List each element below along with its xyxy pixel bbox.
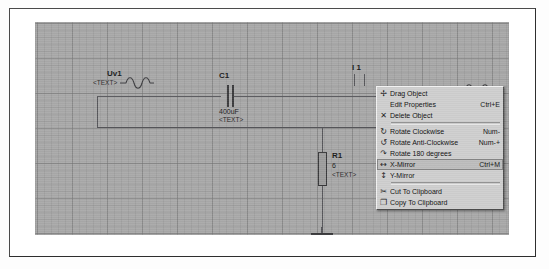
menu-item-accelerator: Ctrl+M — [473, 160, 500, 169]
menu-item-delete-object[interactable]: ✕Delete Object — [377, 110, 503, 121]
menu-item-x-mirror[interactable]: ↔X-MirrorCtrl+M — [377, 159, 503, 170]
component-uv1[interactable]: Uv1 <TEXT> — [93, 70, 155, 98]
menu-item-label: Rotate Anti-Clockwise — [390, 138, 473, 147]
menu-item-copy-to-clipboard[interactable]: ❐Copy To Clipboard — [377, 197, 503, 208]
resistor-symbol — [318, 152, 327, 186]
component-uv1-text: <TEXT> — [93, 79, 117, 87]
menu-item-cut-to-clipboard[interactable]: ✂Cut To Clipboard — [377, 186, 503, 197]
application-window: Uv1 <TEXT> C1 400uF <TEXT> R1 — [0, 0, 549, 269]
menu-item-drag-object[interactable]: ✢Drag Object — [377, 88, 503, 99]
object-context-menu[interactable]: ✢Drag ObjectEdit PropertiesCtrl+E✕Delete… — [376, 86, 504, 210]
sine-source-icon — [119, 75, 155, 91]
menu-item-rotate-anti-clockwise[interactable]: ↺Rotate Anti-ClockwiseNum-+ — [377, 137, 503, 148]
menu-item-label: Delete Object — [390, 111, 494, 120]
menu-item-label: Drag Object — [390, 89, 494, 98]
capacitor-plate-right — [232, 85, 234, 107]
component-r1-value: 6 — [332, 162, 336, 170]
menu-item-label: Edit Properties — [390, 100, 474, 109]
component-ground[interactable] — [308, 227, 336, 235]
component-r1-text: <TEXT> — [332, 171, 356, 179]
menu-item-edit-properties[interactable]: Edit PropertiesCtrl+E — [377, 99, 503, 110]
component-i1-stem-left — [354, 74, 355, 86]
component-c1-value: 400uF — [219, 108, 239, 116]
menu-item-rotate-clockwise[interactable]: ↻Rotate ClockwiseNum- — [377, 126, 503, 137]
menu-item-rotate-180-degrees[interactable]: ↷Rotate 180 degrees — [377, 148, 503, 159]
menu-item-label: X-Mirror — [390, 160, 473, 169]
ground-bar-wide — [311, 233, 333, 235]
component-c1[interactable]: C1 400uF <TEXT> — [213, 72, 263, 122]
menu-item-accelerator: Num-+ — [473, 138, 500, 147]
editor-window-inner: Uv1 <TEXT> C1 400uF <TEXT> R1 — [10, 9, 535, 256]
menu-separator — [391, 122, 500, 125]
x-mirror-icon: ↔ — [377, 159, 390, 170]
menu-item-label: Copy To Clipboard — [390, 198, 494, 207]
menu-item-label: Rotate Clockwise — [390, 127, 477, 136]
rotate-cw-icon: ↻ — [377, 126, 390, 137]
menu-item-label: Cut To Clipboard — [390, 187, 494, 196]
menu-item-label: Rotate 180 degrees — [390, 149, 494, 158]
menu-separator — [391, 182, 500, 185]
schematic-canvas[interactable]: Uv1 <TEXT> C1 400uF <TEXT> R1 — [35, 22, 509, 235]
menu-item-accelerator: Ctrl+E — [474, 100, 500, 109]
move-cross-icon: ✢ — [377, 88, 390, 99]
edit-properties-icon — [377, 99, 390, 110]
capacitor-plate-left — [227, 85, 229, 107]
component-r1-name: R1 — [332, 152, 342, 160]
y-mirror-icon: ↕ — [377, 170, 390, 181]
component-i1-stem-right — [364, 74, 365, 86]
component-uv1-name: Uv1 — [107, 70, 122, 78]
component-r1[interactable]: R1 6 <TEXT> — [310, 146, 370, 194]
menu-item-label: Y-Mirror — [390, 171, 494, 180]
component-c1-text: <TEXT> — [219, 116, 243, 124]
scissors-icon: ✂ — [377, 186, 390, 197]
rotate-180-icon: ↷ — [377, 148, 390, 159]
delete-x-icon: ✕ — [377, 110, 390, 121]
rotate-ccw-icon: ↺ — [377, 137, 390, 148]
editor-window-frame: Uv1 <TEXT> C1 400uF <TEXT> R1 — [9, 8, 536, 257]
capacitor-symbol — [221, 85, 239, 107]
copy-icon: ❐ — [377, 197, 390, 208]
wire-left-vertical[interactable] — [97, 96, 98, 127]
menu-item-accelerator: Num- — [477, 127, 500, 136]
component-i1-name: I 1 — [352, 64, 361, 72]
menu-item-y-mirror[interactable]: ↕Y-Mirror — [377, 170, 503, 181]
component-i1[interactable]: I 1 — [352, 64, 392, 86]
component-c1-name: C1 — [219, 72, 229, 80]
